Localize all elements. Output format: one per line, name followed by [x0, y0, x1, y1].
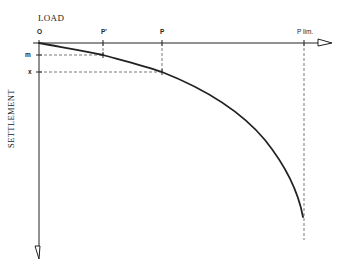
load-settlement-curve [39, 43, 303, 217]
settlement-axis-title: SETTLEMENT [6, 89, 16, 148]
p-lim-label: P lim. [297, 28, 313, 35]
load-axis-title: LOAD [38, 13, 64, 23]
load-axis-arrowhead-icon [318, 39, 332, 46]
m-label: m [25, 51, 31, 58]
settlement-axis-arrowhead-icon [35, 246, 40, 259]
p-prime-label: P' [101, 28, 107, 35]
load-settlement-diagram [0, 0, 360, 276]
x-label: x [28, 68, 32, 75]
p-label: P [160, 28, 164, 35]
origin-label: O [37, 28, 42, 35]
